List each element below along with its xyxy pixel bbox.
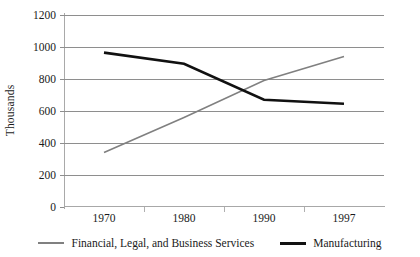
legend-swatch-icon [280,242,306,245]
legend-item[interactable]: Manufacturing [280,236,381,250]
series-line [104,53,344,104]
legend-label: Manufacturing [313,236,381,250]
legend-swatch-icon [38,242,64,244]
series-layer [0,0,420,257]
series-line [104,57,344,153]
chart-legend: Financial, Legal, and Business ServicesM… [0,233,420,253]
line-chart: Thousands 020040060080010001200 19701980… [0,0,420,257]
legend-item[interactable]: Financial, Legal, and Business Services [38,236,254,250]
legend-label: Financial, Legal, and Business Services [71,236,254,250]
